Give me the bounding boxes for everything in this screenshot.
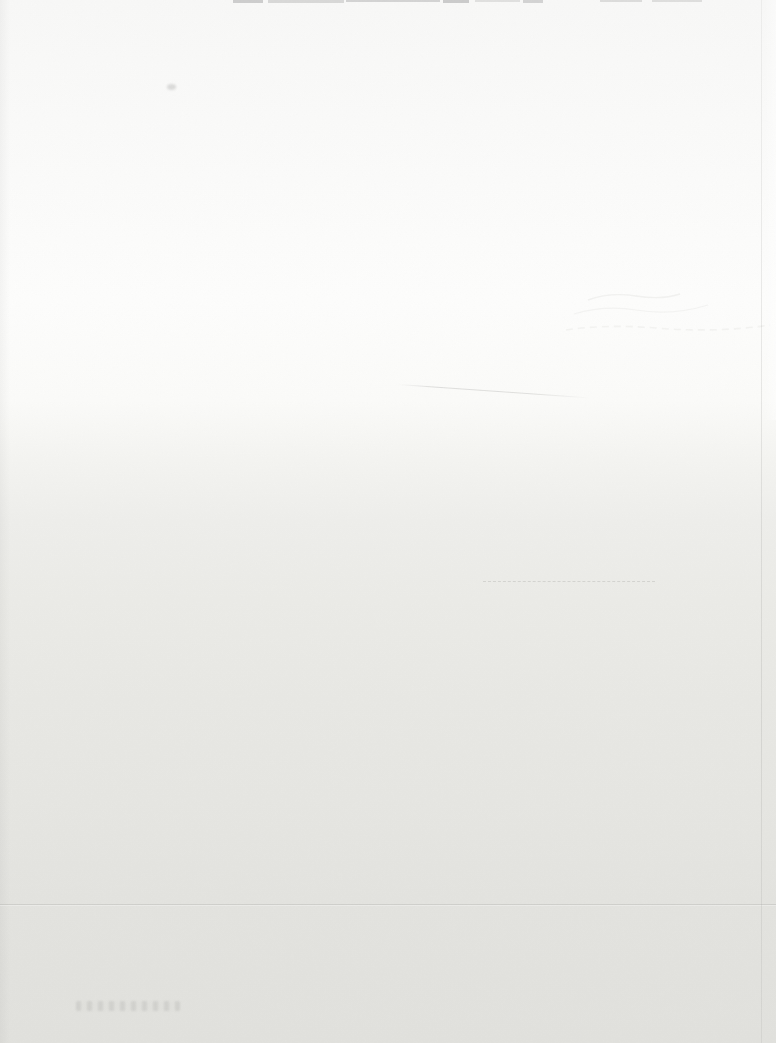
top-edge-text-remnant [443,0,469,3]
top-edge-text-remnant [652,0,702,2]
dotted-smudge-row [483,581,655,582]
vertical-fold-line [761,0,762,1043]
show-through-marks [560,280,776,340]
top-edge-text-remnant [600,0,642,2]
top-edge-text-remnant [268,0,344,3]
top-edge-text-remnant [523,0,543,3]
top-edge-text-remnant [346,0,440,2]
small-smudge [167,84,176,90]
horizontal-crease [0,904,776,905]
left-edge-vignette [0,0,10,1043]
illegible-watermark-smudge [76,1001,180,1011]
diagonal-scratch [398,384,590,398]
top-edge-text-remnant [475,0,520,2]
blank-page-photo [0,0,776,1043]
film-grain-overlay [0,0,776,1043]
top-edge-text-remnant [233,0,263,3]
right-edge-highlight [764,0,776,420]
